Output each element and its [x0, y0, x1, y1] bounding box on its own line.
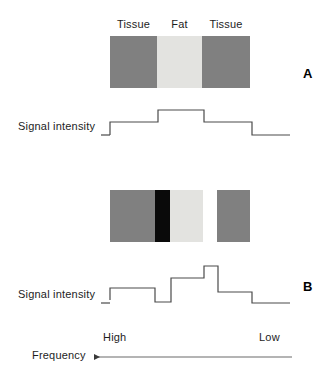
- frequency-arrow-icon: [0, 0, 325, 376]
- figure-canvas: Tissue Fat Tissue A Signal intensity B S…: [0, 0, 325, 376]
